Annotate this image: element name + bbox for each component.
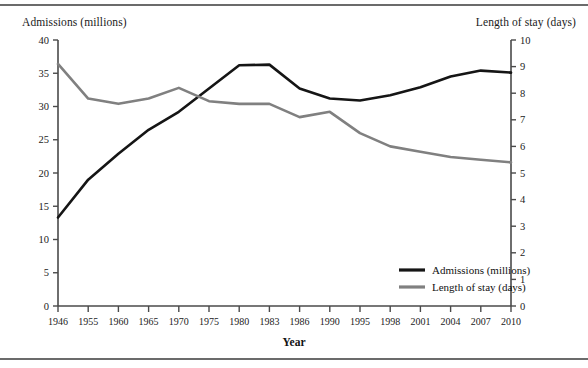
series-lines (58, 64, 511, 218)
right-axis-tick-label: 4 (520, 194, 526, 205)
x-axis-tick-label: 1998 (380, 316, 400, 327)
right-axis-tick-label: 6 (520, 141, 525, 152)
series-line-admissions (58, 65, 511, 218)
x-axis-tick-label: 1965 (139, 316, 159, 327)
right-axis-tick-label: 0 (520, 301, 525, 312)
x-axis-tick-label: 1995 (350, 316, 370, 327)
right-axis-tick-label: 2 (520, 247, 525, 258)
x-axis-tick-label: 1946 (48, 316, 68, 327)
left-axis-tick-label: 5 (44, 267, 49, 278)
left-axis-tick-label: 35 (39, 68, 50, 79)
x-axis-tick-label: 1970 (169, 316, 189, 327)
x-axis: 1946195519601965197019751980198319861990… (48, 306, 521, 327)
x-axis-tick-label: 2001 (410, 316, 430, 327)
x-axis-tick-label: 2004 (441, 316, 461, 327)
left-axis-tick-label: 40 (39, 35, 50, 46)
x-axis-tick-label: 1980 (229, 316, 249, 327)
x-axis-tick-label: 1990 (320, 316, 340, 327)
right-axis-tick-label: 10 (520, 35, 531, 46)
legend-label: Length of stay (days) (432, 281, 526, 294)
right-axis-tick-label: 3 (520, 221, 525, 232)
left-axis-tick-label: 20 (39, 168, 50, 179)
x-axis-tick-label: 1975 (199, 316, 219, 327)
x-axis-tick-label: 1960 (108, 316, 128, 327)
x-axis-tick-label: 1983 (259, 316, 279, 327)
right-axis-tick-label: 7 (520, 114, 525, 125)
left-axis-tick-label: 25 (39, 134, 50, 145)
right-axis-tick-label: 9 (520, 61, 525, 72)
x-axis-tick-label: 1955 (78, 316, 98, 327)
x-axis-tick-label: 2007 (471, 316, 491, 327)
left-axis-tick-label: 15 (39, 201, 50, 212)
line-chart-plot: 0510152025303540 012345678910 1946195519… (0, 0, 588, 368)
left-axis-tick-label: 10 (39, 234, 50, 245)
left-axis-tick-label: 0 (44, 301, 49, 312)
figure-container: Admissions (millions) Length of stay (da… (0, 0, 588, 368)
right-axis-tick-label: 5 (520, 168, 525, 179)
left-axis-tick-label: 30 (39, 101, 50, 112)
left-y-axis: 0510152025303540 (39, 35, 59, 312)
legend-label: Admissions (millions) (432, 264, 530, 277)
x-axis-tick-label: 1986 (290, 316, 310, 327)
x-axis-title: Year (0, 336, 588, 348)
x-axis-tick-label: 2010 (501, 316, 521, 327)
right-axis-tick-label: 8 (520, 88, 525, 99)
